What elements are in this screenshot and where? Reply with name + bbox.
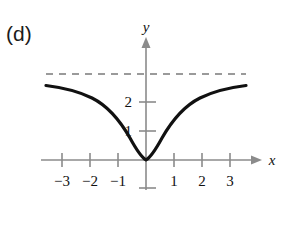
x-tick-label--3: −3 [54,173,70,189]
graph-plot: y x −3 −2 −1 1 2 3 1 2 [0,0,292,241]
y-tick-label-2: 2 [125,94,133,110]
x-tick-label--2: −2 [82,173,98,189]
y-axis-label: y [141,19,150,35]
x-axis-label: x [268,152,276,168]
x-tick-label-1: 1 [170,173,178,189]
y-axis-arrowhead [142,37,151,48]
x-axis-arrowhead [251,156,262,165]
y-tick-label-1: 1 [125,123,133,139]
x-tick-label--1: −1 [110,173,126,189]
x-tick-label-2: 2 [198,173,206,189]
figure-container: (d) y x −3 −2 −1 1 2 3 [0,0,292,241]
x-tick-label-3: 3 [226,173,234,189]
